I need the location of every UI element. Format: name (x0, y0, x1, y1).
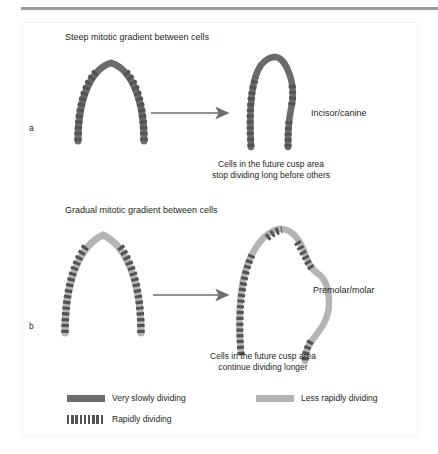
figure-panel: a Steep mitotic gradient between cells (22, 22, 418, 436)
legend-label-very-slowly-dividing: Very slowly dividing (112, 393, 186, 403)
legend-label-less-rapidly-dividing: Less rapidly dividing (301, 393, 378, 403)
panel-b-left-arch (65, 235, 141, 333)
panel-b-artwork (23, 23, 419, 437)
legend-swatch-solid-light-icon (256, 395, 294, 402)
cropped-header-text (0, 0, 438, 2)
panel-b-caption-line1: Cells in the future cusp area (210, 351, 316, 361)
legend-item-less-rapidly-dividing: Less rapidly dividing (256, 393, 378, 403)
panel-b-tooth-name: Premolar/molar (313, 285, 375, 295)
figure-page: a Steep mitotic gradient between cells (0, 0, 438, 454)
legend-swatch-striped-icon (67, 415, 105, 424)
header-divider (21, 7, 438, 10)
legend-swatch-solid-dark-icon (67, 395, 105, 402)
panel-b-caption: Cells in the future cusp area continue d… (153, 351, 373, 373)
panel-b-right-tooth (240, 229, 329, 363)
legend-item-rapidly-dividing: Rapidly dividing (67, 414, 172, 424)
panel-b-caption-line2: continue dividing longer (218, 362, 307, 372)
legend-label-rapidly-dividing: Rapidly dividing (112, 414, 172, 424)
legend-item-very-slowly-dividing: Very slowly dividing (67, 393, 186, 403)
